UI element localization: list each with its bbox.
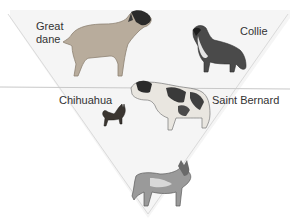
chihuahua-label: Chihuahua (59, 94, 112, 107)
saint-bernard-label: Saint Bernard (212, 94, 279, 107)
collie-label: Collie (240, 25, 268, 38)
dog-breed-divergence-diagram: Great dane Collie Chihuahua Saint Bernar… (0, 0, 290, 222)
great-dane-label: Great dane (36, 20, 76, 46)
great-dane-label-line2: dane (36, 33, 76, 46)
great-dane-label-line1: Great (36, 20, 76, 33)
